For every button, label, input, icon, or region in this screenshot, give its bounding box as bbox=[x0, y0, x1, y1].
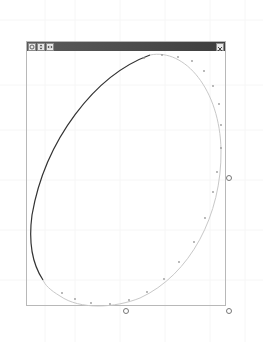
ellipse-outline-dark bbox=[31, 55, 150, 280]
resize-handle-bottom-right[interactable] bbox=[226, 308, 232, 314]
drawing-canvas[interactable] bbox=[0, 0, 263, 342]
ellipse-shape[interactable] bbox=[0, 0, 263, 342]
ellipse-outline-light bbox=[43, 54, 221, 306]
resize-handle-bottom[interactable] bbox=[123, 308, 129, 314]
control-points bbox=[61, 54, 222, 305]
resize-handle-right[interactable] bbox=[226, 175, 232, 181]
